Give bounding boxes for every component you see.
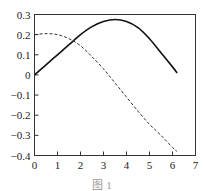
x-tick-label: 1 <box>55 159 61 171</box>
x-axis: 01234567 <box>32 152 199 171</box>
x-tick-label: 0 <box>32 159 38 171</box>
dashed-curve <box>35 34 178 152</box>
x-tick-label: 6 <box>170 159 176 171</box>
solid-curve <box>35 20 178 75</box>
y-tick-label: 0.1 <box>17 49 31 61</box>
plot-series <box>35 20 178 152</box>
figure-caption: 图 1 <box>0 176 204 191</box>
plot-frame <box>35 15 196 156</box>
y-tick-label: −0.2 <box>11 109 31 121</box>
x-tick-label: 7 <box>193 159 199 171</box>
x-tick-label: 2 <box>78 159 84 171</box>
x-tick-label: 5 <box>147 159 153 171</box>
y-tick-label: 0.3 <box>17 9 31 21</box>
x-tick-label: 4 <box>124 159 130 171</box>
y-tick-label: 0.2 <box>17 29 31 41</box>
y-tick-label: −0.4 <box>11 150 31 162</box>
y-tick-label: −0.1 <box>11 89 31 101</box>
x-tick-label: 3 <box>101 159 107 171</box>
line-chart: 0.30.20.10−0.1−0.2−0.3−0.4 01234567 <box>0 0 204 175</box>
y-tick-label: 0 <box>25 69 31 81</box>
y-tick-label: −0.3 <box>11 129 31 141</box>
